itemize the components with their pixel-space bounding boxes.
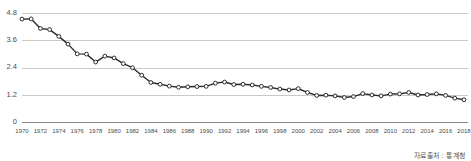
data-point-marker xyxy=(29,17,33,21)
x-axis-tick-label: 1970 xyxy=(15,128,29,134)
y-axis-tick-label: 3.6 xyxy=(7,35,17,44)
data-point-marker xyxy=(388,92,392,96)
data-point-marker xyxy=(121,62,125,66)
x-axis-tick-label: 1990 xyxy=(199,128,213,134)
x-axis-tick-label: 2008 xyxy=(365,128,379,134)
data-point-marker xyxy=(352,95,356,99)
data-point-marker xyxy=(416,93,420,97)
data-point-marker xyxy=(306,91,310,95)
data-point-marker xyxy=(434,92,438,96)
x-axis-tick-label: 2018 xyxy=(457,128,471,134)
x-axis-tick-labels: 1970197219741976197819801982198419861988… xyxy=(15,128,471,134)
x-axis-tick-label: 2002 xyxy=(310,128,324,134)
series-line xyxy=(22,19,464,100)
data-point-marker xyxy=(39,27,43,31)
x-axis-tick-label: 2006 xyxy=(347,128,361,134)
data-point-marker xyxy=(158,82,162,86)
data-point-marker xyxy=(177,85,181,89)
data-point-marker xyxy=(315,94,319,98)
data-point-marker xyxy=(57,34,61,38)
chart-plot-area: 1970197219741976197819801982198419861988… xyxy=(0,0,471,142)
data-point-marker xyxy=(186,85,190,89)
x-axis-tick-label: 1992 xyxy=(218,128,232,134)
x-axis-tick-label: 1972 xyxy=(34,128,48,134)
x-axis-tick-label: 1980 xyxy=(107,128,121,134)
x-axis-tick-label: 2012 xyxy=(402,128,416,134)
data-point-marker xyxy=(407,91,411,95)
data-point-marker xyxy=(66,42,70,46)
x-axis-tick-label: 1996 xyxy=(255,128,269,134)
data-point-marker xyxy=(48,28,52,32)
data-point-marker xyxy=(370,93,374,97)
data-point-marker xyxy=(85,52,89,56)
x-axis-tick-label: 2000 xyxy=(292,128,306,134)
x-axis-tick-label: 1986 xyxy=(163,128,177,134)
data-point-marker xyxy=(103,54,107,58)
x-axis-tick-label: 1988 xyxy=(181,128,195,134)
data-point-marker xyxy=(131,66,135,70)
data-point-marker xyxy=(140,73,144,77)
data-point-marker xyxy=(462,98,466,102)
data-point-marker xyxy=(75,52,79,56)
data-point-marker xyxy=(287,88,291,92)
data-point-marker xyxy=(342,96,346,100)
data-point-marker xyxy=(167,84,171,88)
data-point-markers xyxy=(20,17,466,102)
x-axis-tick-label: 1998 xyxy=(273,128,287,134)
x-axis-tick-label: 1974 xyxy=(52,128,66,134)
data-point-marker xyxy=(112,56,116,60)
data-point-marker xyxy=(232,83,236,87)
data-point-marker xyxy=(398,92,402,96)
y-axis-tick-label: 4.8 xyxy=(7,8,17,17)
data-point-marker xyxy=(324,93,328,97)
data-point-marker xyxy=(453,96,457,100)
x-axis-tick-label: 2016 xyxy=(439,128,453,134)
x-axis-tick-label: 1984 xyxy=(144,128,158,134)
x-axis-tick-label: 1976 xyxy=(71,128,85,134)
y-axis-tick-label: 2.4 xyxy=(7,62,17,71)
y-axis-tick-labels: 01.22.43.64.8 xyxy=(7,8,17,126)
data-point-marker xyxy=(94,60,98,64)
data-point-marker xyxy=(425,93,429,97)
data-point-marker xyxy=(379,94,383,98)
source-attribution: 자료출처 : 통계청 xyxy=(414,150,465,160)
y-axis-tick-label: 1.2 xyxy=(7,90,17,99)
data-series-line xyxy=(22,19,464,100)
data-point-marker xyxy=(213,81,217,85)
fertility-rate-chart: 1970197219741976197819801982198419861988… xyxy=(0,0,471,161)
data-point-marker xyxy=(149,81,153,85)
y-axis-tick-label: 0 xyxy=(13,117,17,126)
data-point-marker xyxy=(250,83,254,87)
data-point-marker xyxy=(296,87,300,91)
x-axis-tick-label: 1978 xyxy=(89,128,103,134)
data-point-marker xyxy=(241,82,245,86)
data-point-marker xyxy=(333,94,337,98)
x-axis-tick-label: 2004 xyxy=(328,128,342,134)
x-axis-tick-label: 2010 xyxy=(384,128,398,134)
data-point-marker xyxy=(269,86,273,90)
data-point-marker xyxy=(361,92,365,96)
data-point-marker xyxy=(204,84,208,88)
gridlines xyxy=(22,14,468,123)
data-point-marker xyxy=(223,80,227,84)
x-axis-tick-label: 2014 xyxy=(420,128,434,134)
data-point-marker xyxy=(20,17,24,21)
data-point-marker xyxy=(444,94,448,98)
x-axis-tick-label: 1982 xyxy=(126,128,140,134)
data-point-marker xyxy=(260,84,264,88)
x-axis-tick-label: 1994 xyxy=(236,128,250,134)
data-point-marker xyxy=(195,85,199,89)
data-point-marker xyxy=(278,87,282,91)
